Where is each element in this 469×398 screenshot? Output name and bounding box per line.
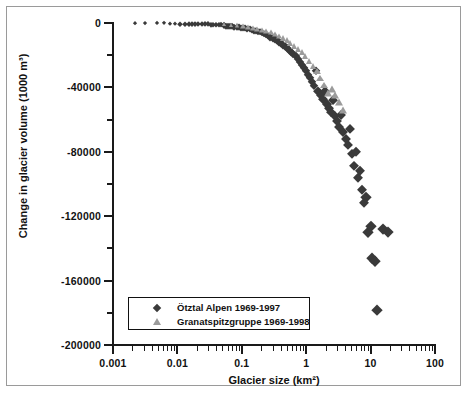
y-tick-label: -160000: [61, 275, 101, 287]
x-tick-minor: [351, 345, 352, 351]
x-tick-minor: [174, 345, 175, 351]
x-tick-minor: [337, 345, 338, 351]
figure-container: 0-40000-80000-120000-160000-200000 0.001…: [0, 0, 469, 398]
y-tick-label: -80000: [67, 146, 101, 158]
x-tick-major: [434, 345, 436, 354]
legend: Ötztal Alpen 1969-1997 Granatspitzgruppe…: [128, 297, 310, 330]
x-tick-major: [305, 345, 307, 354]
legend-item-granatspitzgruppe: Granatspitzgruppe 1969-1998: [129, 314, 309, 329]
x-tick-minor: [144, 345, 145, 351]
data-point-triangle: [229, 23, 233, 27]
data-point-diamond: [133, 21, 137, 25]
y-tick-major: [104, 22, 113, 24]
x-tick-minor: [261, 345, 262, 351]
x-tick-minor: [292, 345, 293, 351]
x-tick-minor: [208, 345, 209, 351]
x-tick-label: 0.1: [234, 357, 249, 369]
legend-label-otztal-alpen: Ötztal Alpen 1969-1997: [177, 302, 280, 313]
x-tick-major: [241, 345, 243, 354]
y-tick-minor: [107, 183, 113, 185]
x-tick-minor: [287, 345, 288, 351]
data-point-triangle: [222, 22, 226, 26]
y-tick-label: -120000: [61, 210, 101, 222]
x-tick-minor: [158, 345, 159, 351]
x-tick-label: 10: [365, 357, 377, 369]
y-tick-label: 0: [95, 17, 101, 29]
data-point-triangle: [316, 75, 324, 81]
data-point-triangle: [339, 106, 347, 113]
x-axis-ticks: 0.0010.010.1110100: [113, 345, 435, 357]
x-tick-minor: [152, 345, 153, 351]
x-tick-minor: [300, 345, 301, 351]
x-tick-minor: [296, 345, 297, 351]
x-tick-label: 100: [426, 357, 444, 369]
x-tick-minor: [390, 345, 391, 351]
x-tick-minor: [345, 345, 346, 351]
legend-label-granatspitzgruppe: Granatspitzgruppe 1969-1998: [177, 316, 310, 327]
y-tick-minor: [107, 247, 113, 249]
x-axis-title: Glacier size (km²): [113, 374, 435, 386]
legend-item-otztal-alpen: Ötztal Alpen 1969-1997: [129, 300, 309, 315]
x-tick-major: [176, 345, 178, 354]
x-tick-minor: [167, 345, 168, 351]
x-tick-minor: [421, 345, 422, 351]
x-tick-minor: [364, 345, 365, 351]
x-tick-minor: [368, 345, 369, 351]
y-tick-major: [104, 86, 113, 88]
legend-triangle-icon: [151, 316, 163, 328]
x-tick-minor: [416, 345, 417, 351]
x-tick-minor: [303, 345, 304, 351]
x-tick-minor: [425, 345, 426, 351]
data-point-diamond: [162, 21, 167, 26]
y-tick-major: [104, 280, 113, 282]
x-tick-minor: [273, 345, 274, 351]
x-tick-minor: [232, 345, 233, 351]
data-point-diamond: [371, 304, 382, 315]
x-tick-minor: [401, 345, 402, 351]
y-tick-major: [104, 215, 113, 217]
x-tick-minor: [361, 345, 362, 351]
y-axis-title: Change in glacier volume (1000 m³): [17, 0, 29, 311]
x-tick-minor: [197, 345, 198, 351]
x-tick-minor: [326, 345, 327, 351]
legend-diamond-icon: [151, 302, 163, 314]
x-tick-minor: [281, 345, 282, 351]
y-tick-minor: [107, 312, 113, 314]
x-tick-minor: [239, 345, 240, 351]
data-point-diamond: [143, 21, 147, 25]
x-tick-minor: [356, 345, 357, 351]
data-point-triangle: [313, 68, 321, 74]
x-tick-minor: [216, 345, 217, 351]
y-tick-minor: [107, 54, 113, 56]
x-tick-minor: [409, 345, 410, 351]
x-tick-label: 1: [303, 357, 309, 369]
x-tick-label: 0.001: [99, 357, 126, 369]
x-tick-major: [370, 345, 372, 354]
x-tick-minor: [222, 345, 223, 351]
x-tick-label: 0.01: [167, 357, 188, 369]
y-tick-major: [104, 151, 113, 153]
y-tick-label: -200000: [61, 339, 101, 351]
x-tick-minor: [236, 345, 237, 351]
x-tick-minor: [163, 345, 164, 351]
x-tick-minor: [228, 345, 229, 351]
y-tick-label: -40000: [67, 81, 101, 93]
x-tick-minor: [171, 345, 172, 351]
x-tick-minor: [132, 345, 133, 351]
x-tick-minor: [429, 345, 430, 351]
data-point-diamond: [155, 21, 159, 25]
x-tick-major: [112, 345, 114, 354]
x-tick-minor: [432, 345, 433, 351]
data-point-triangle: [335, 98, 343, 105]
y-tick-minor: [107, 119, 113, 121]
